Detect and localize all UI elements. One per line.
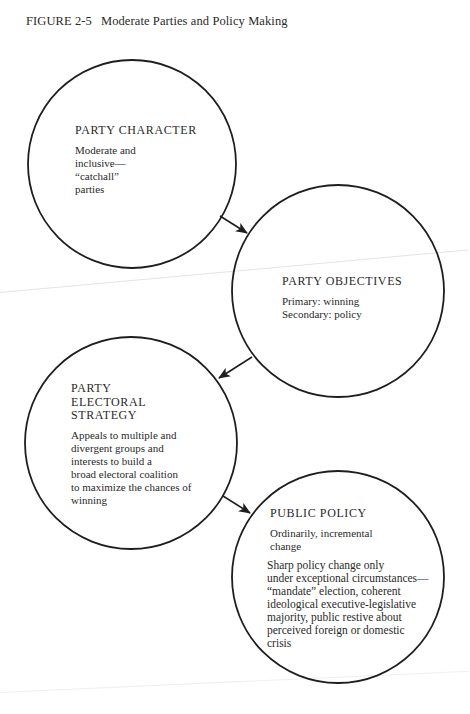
- node-description: Moderate and inclusive— “catchall” parti…: [75, 144, 225, 196]
- node-title: PUBLIC POLICY: [270, 507, 447, 521]
- node-description: Appeals to multiple and divergent groups…: [71, 429, 231, 507]
- node-party-electoral-strategy: PARTY ELECTORAL STRATEGY Appeals to mult…: [71, 382, 231, 513]
- node-description: Ordinarily, incremental change: [270, 527, 447, 553]
- node-party-character: PARTY CHARACTER Moderate and inclusive— …: [75, 124, 225, 202]
- node-title: PARTY CHARACTER: [75, 124, 225, 138]
- arrow-icon: [220, 216, 247, 233]
- node-description: Primary: winning Secondary: policy: [282, 295, 442, 321]
- node-description: Sharp policy change only under exception…: [267, 559, 447, 650]
- node-title: PARTY OBJECTIVES: [282, 275, 442, 289]
- arrow-icon: [219, 357, 252, 378]
- node-title: PARTY ELECTORAL STRATEGY: [71, 382, 231, 423]
- node-party-objectives: PARTY OBJECTIVES Primary: winning Second…: [282, 275, 442, 327]
- node-public-policy: PUBLIC POLICY Ordinarily, incremental ch…: [267, 507, 447, 656]
